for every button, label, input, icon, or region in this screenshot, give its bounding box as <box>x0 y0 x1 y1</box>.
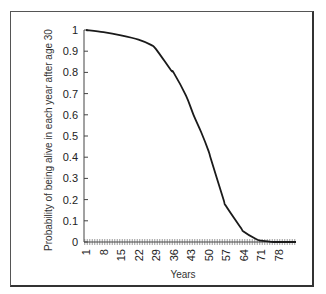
x-tick-label: 78 <box>273 249 285 261</box>
x-tick-label: 64 <box>238 249 250 261</box>
y-tick-label: 0.7 <box>63 88 78 100</box>
y-tick-label: 0.1 <box>63 215 78 227</box>
y-tick-label: 1 <box>72 24 78 36</box>
x-axis: 1815222936435057647178 <box>80 239 296 261</box>
x-tick-label: 8 <box>98 249 110 255</box>
y-tick-label: 0.8 <box>63 66 78 78</box>
line-chart: 00.10.20.30.40.50.60.70.80.91 1815222936… <box>0 0 326 294</box>
x-tick-label: 15 <box>115 249 127 261</box>
x-tick-label: 29 <box>150 249 162 261</box>
x-tick-label: 50 <box>203 249 215 261</box>
y-tick-label: 0.3 <box>63 172 78 184</box>
x-tick-label: 71 <box>255 249 267 261</box>
y-axis-label: Probability of being alive in each year … <box>43 29 54 251</box>
y-tick-label: 0.5 <box>63 130 78 142</box>
y-tick-label: 0.2 <box>63 194 78 206</box>
y-tick-label: 0.9 <box>63 45 78 57</box>
survival-curve <box>86 30 296 242</box>
x-tick-label: 1 <box>80 249 92 255</box>
y-axis: 00.10.20.30.40.50.60.70.80.91 <box>63 24 88 248</box>
y-tick-label: 0.6 <box>63 109 78 121</box>
x-tick-label: 22 <box>133 249 145 261</box>
x-tick-label: 57 <box>220 249 232 261</box>
x-tick-label: 36 <box>168 249 180 261</box>
y-tick-label: 0.4 <box>63 151 78 163</box>
x-tick-label: 43 <box>185 249 197 261</box>
y-tick-label: 0 <box>72 236 78 248</box>
x-axis-label: Years <box>170 269 195 280</box>
